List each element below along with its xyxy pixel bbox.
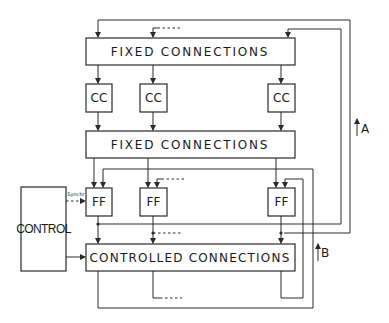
dashed-output-bottom xyxy=(153,271,182,298)
ff-box-3-label: FF xyxy=(275,195,289,209)
arrows-fixed-to-ff xyxy=(94,158,276,187)
cc-box-2-label: CC xyxy=(145,91,162,105)
fixed-connections-top-label: FIXED CONNECTIONS xyxy=(111,45,270,59)
block-diagram: FIXED CONNECTIONS CC CC CC FIXED CONNECT… xyxy=(0,0,389,323)
arrows-fixed-to-cc xyxy=(98,65,281,83)
ff-box-1-label: FF xyxy=(92,195,106,209)
dashed-input-top xyxy=(153,28,180,37)
cc-box-1-label: CC xyxy=(91,91,108,105)
cc-box-3-label: CC xyxy=(273,91,290,105)
feedback-b-label: B xyxy=(321,246,329,260)
controlled-connections-label: CONTROLLED CONNECTIONS xyxy=(90,251,291,265)
dashed-input-ff2 xyxy=(157,179,184,187)
arrows-cc-to-fixed xyxy=(98,112,281,130)
feedback-a-label: A xyxy=(361,122,370,136)
control-label: CONTROL xyxy=(16,222,71,236)
fixed-connections-bottom-label: FIXED CONNECTIONS xyxy=(111,138,270,152)
synchr-label: Synchr xyxy=(67,191,85,198)
arrows-ff-to-controlled xyxy=(96,216,282,243)
ff-box-2-label: FF xyxy=(147,195,161,209)
